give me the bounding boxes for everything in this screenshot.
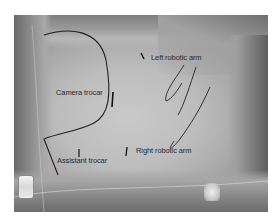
robotic-arm-incision-c	[170, 87, 210, 148]
camera-trocar-mark	[112, 92, 113, 107]
right-arm-mark	[126, 147, 127, 156]
right-robotic-arm-label: Right robotic arm	[136, 146, 191, 155]
left-robotic-arm-label: Left robotic arm	[151, 53, 202, 62]
robotic-arm-incision-a	[166, 65, 184, 101]
camera-trocar-label: Camera trocar	[56, 88, 103, 97]
assistant-trocar-label: Assistant trocar	[57, 156, 107, 165]
drape-fold	[14, 181, 268, 197]
drape-fold	[32, 25, 44, 212]
surgical-photo	[14, 15, 268, 212]
robotic-arm-incision-b	[178, 67, 196, 115]
left-arm-mark	[141, 53, 144, 59]
costal-margin-line	[44, 31, 109, 175]
skin-markings	[14, 15, 268, 212]
